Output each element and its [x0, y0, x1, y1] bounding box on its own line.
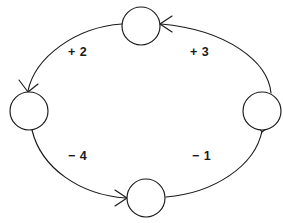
cycle-graph-svg: [0, 0, 283, 223]
edge-right-to-top: [161, 24, 271, 93]
edge-label-bottom-to-right: − 1: [192, 150, 211, 163]
edge-label-top-to-left: + 2: [68, 46, 87, 59]
edge-bottom-to-right: [166, 131, 262, 197]
edge-label-right-to-top: + 3: [190, 46, 209, 59]
node-bottom[interactable]: [127, 179, 165, 217]
edge-left-to-bottom: [32, 130, 126, 198]
node-top[interactable]: [122, 7, 160, 45]
node-right[interactable]: [243, 92, 281, 130]
diagram-canvas: + 2 − 4 − 1 + 3: [0, 0, 283, 223]
edge-label-left-to-bottom: − 4: [68, 150, 87, 163]
node-left[interactable]: [10, 92, 48, 130]
